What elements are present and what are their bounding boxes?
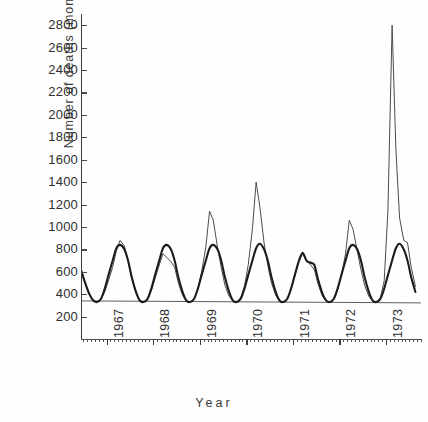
y-tick-label: 2400 [32, 63, 78, 76]
y-tick-label: 800 [32, 242, 78, 255]
y-tick-label: 1800 [32, 130, 78, 143]
x-tick-label: 1967 [112, 309, 126, 338]
x-tick-label: 1968 [158, 309, 172, 338]
plot-area [81, 14, 421, 340]
x-tick-label: 1970 [251, 309, 265, 338]
x-tick-label: 1973 [391, 309, 405, 338]
y-tick-mark [82, 249, 87, 250]
chart-figure: Number of deaths (monthly) 2004006008001… [0, 0, 428, 422]
series-line-observed [81, 25, 415, 302]
y-tick-mark [82, 272, 87, 273]
y-tick-mark [82, 70, 87, 71]
y-tick-mark [82, 115, 87, 116]
x-axis-title: Year [0, 396, 428, 410]
y-axis-tick-labels: 2004006008001000120014001600180020002200… [26, 0, 78, 422]
y-tick-label: 400 [32, 287, 78, 300]
y-tick-label: 1600 [32, 153, 78, 166]
y-tick-mark [82, 205, 87, 206]
y-tick-mark [82, 25, 87, 26]
y-tick-label: 2600 [32, 41, 78, 54]
x-tick-label: 1971 [298, 309, 312, 338]
x-tick-label: 1969 [205, 309, 219, 338]
y-tick-label: 200 [32, 310, 78, 323]
x-tick-label: 1972 [344, 309, 358, 338]
y-tick-mark [82, 317, 87, 318]
y-tick-mark [82, 137, 87, 138]
y-tick-label: 2000 [32, 108, 78, 121]
baseline-reference-line [81, 301, 421, 303]
x-tick-mark-minor [421, 339, 422, 342]
y-tick-mark [82, 182, 87, 183]
y-tick-label: 2800 [32, 18, 78, 31]
y-tick-label: 600 [32, 265, 78, 278]
y-tick-label: 1400 [32, 175, 78, 188]
chart-canvas [81, 14, 421, 340]
y-tick-mark [82, 160, 87, 161]
y-tick-mark [82, 294, 87, 295]
y-axis-line [81, 14, 82, 340]
y-tick-label: 2200 [32, 85, 78, 98]
y-tick-label: 1200 [32, 198, 78, 211]
y-tick-mark [82, 48, 87, 49]
y-tick-mark [82, 92, 87, 93]
y-tick-mark [82, 227, 87, 228]
y-tick-label: 1000 [32, 220, 78, 233]
x-axis-tick-labels: 1967196819691970197119721973 [81, 338, 421, 388]
series-line-fitted [81, 244, 415, 302]
